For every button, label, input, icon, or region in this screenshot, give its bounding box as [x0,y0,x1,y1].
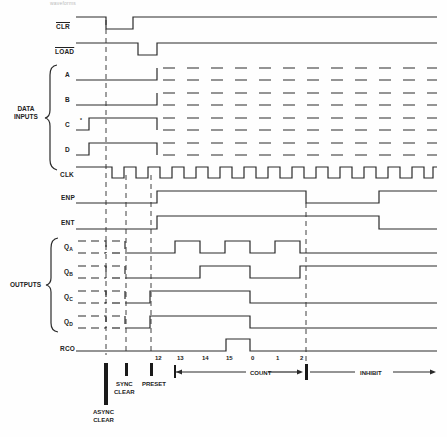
async-clear-bar [104,363,108,405]
preset-bar [150,363,153,376]
enp-waveform [76,191,437,203]
count-tick: 12 [155,355,162,361]
qc-waveform [125,291,437,303]
qd-waveform [125,316,437,328]
count-label: COUNT [250,369,271,377]
outputs-unknown [78,241,125,328]
qb-label: QB [64,268,73,277]
c-waveform [76,118,157,130]
header-fragment: waveforms [50,0,76,6]
inhibit-start-bar [305,364,308,380]
data-dont-care [163,68,437,155]
b-waveform [76,93,157,105]
c-label: C [65,121,70,128]
count-end-arrowhead [297,370,303,375]
rco-waveform [76,339,437,351]
clk-label: CLK [60,171,74,178]
data-inputs-brace [45,65,57,170]
count-start-bar [174,365,176,378]
clr-waveform [76,17,437,29]
clr-label: CLR [56,23,70,30]
qa-label: QA [64,243,73,252]
count-tick: 1 [276,355,279,361]
clk-waveform [76,167,437,178]
async-clear-label: ASYNCCLEAR [93,408,114,424]
load-label: LOAD [55,48,74,55]
count-arrowhead [176,370,182,375]
qc-label: QC [64,293,73,302]
c-marker: * [80,117,82,123]
a-label: A [65,71,70,78]
d-label: D [65,146,70,153]
preset-label: PRESET [142,380,166,388]
count-tick: 0 [251,355,254,361]
inhibit-label: INHIBIT [360,369,382,377]
qb-waveform [125,266,437,278]
d-waveform [76,143,157,155]
load-waveform [76,43,437,55]
event-markers [106,20,306,375]
timing-diagram: waveforms CLR LOAD A B C * D CLK ENP ENT… [0,0,447,437]
rco-label: RCO [60,345,75,352]
count-tick: 13 [177,355,184,361]
outputs-group-label: OUTPUTS [10,281,41,289]
data-inputs-group-label: DATAINPUTS [14,105,38,121]
qd-label: QD [64,318,73,327]
outputs-brace [46,238,58,332]
count-tick: 15 [226,355,233,361]
ent-label: ENT [61,219,75,226]
a-waveform [76,68,157,80]
qa-waveform [125,241,437,253]
sync-clear-label: SYNCCLEAR [114,380,135,396]
ent-waveform [76,216,437,229]
count-tick: 14 [202,355,209,361]
count-tick: 2 [300,355,303,361]
inhibit-arrowhead [430,370,436,375]
sync-clear-bar [125,363,128,376]
b-label: B [65,96,70,103]
enp-label: ENP [61,194,75,201]
